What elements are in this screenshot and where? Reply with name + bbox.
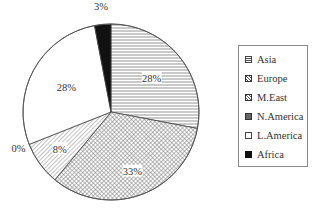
pie-slices: [23, 24, 199, 200]
europe-swatch-icon: [245, 75, 252, 82]
legend-label: L.America: [257, 130, 302, 141]
pct-label-namerica: 0%: [12, 143, 26, 154]
africa-swatch-icon: [245, 151, 252, 158]
pct-label-africa: 3%: [94, 1, 108, 12]
lamerica-swatch-icon: [245, 132, 252, 139]
legend-item-meast: M.East: [245, 90, 287, 104]
legend-item-africa: Africa: [245, 147, 284, 161]
meast-swatch-icon: [245, 94, 252, 101]
legend-label: Asia: [257, 54, 276, 65]
pct-label-asia: 28%: [142, 73, 162, 84]
chart-legend: Asia Europe M.East N.America L.America A…: [238, 45, 308, 167]
legend-item-lamerica: L.America: [245, 128, 302, 142]
pct-label-meast: 33%: [123, 166, 143, 177]
legend-label: N.America: [257, 111, 303, 122]
legend-item-asia: Asia: [245, 52, 276, 66]
legend-item-namerica: N.America: [245, 109, 303, 123]
pct-label-lamerica: 28%: [57, 82, 77, 93]
legend-label: M.East: [257, 92, 287, 103]
pct-label-europe: 8%: [53, 144, 67, 155]
asia-swatch-icon: [245, 56, 252, 63]
legend-label: Africa: [257, 149, 284, 160]
legend-label: Europe: [257, 73, 287, 84]
legend-item-europe: Europe: [245, 71, 287, 85]
namerica-swatch-icon: [245, 113, 252, 120]
